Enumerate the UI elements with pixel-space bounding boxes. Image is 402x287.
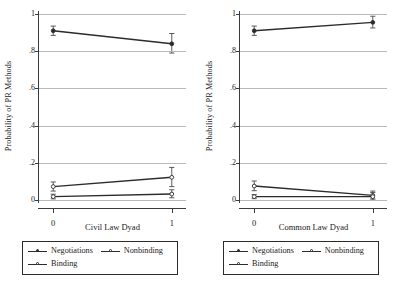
legend-civil: Negotiations Nonbinding Binding xyxy=(22,241,178,275)
data-point-marker xyxy=(371,20,375,24)
line-marker-icon-nonbinding xyxy=(101,248,120,255)
gridline xyxy=(39,163,186,164)
x-axis-tick xyxy=(373,209,374,213)
panel-common-law-dyad: Probability of PR Methods 0.2.4.6.8101 C… xyxy=(201,0,402,287)
y-axis-label: Probability of PR Methods xyxy=(2,6,16,206)
y-axis-tick xyxy=(35,51,39,52)
series-line xyxy=(53,194,172,197)
legend-row-2: Binding xyxy=(28,258,172,271)
data-point-marker xyxy=(51,195,55,199)
y-axis-tick-label: .8 xyxy=(29,47,35,55)
y-axis-tick xyxy=(35,126,39,127)
plot-area-common: 0.2.4.6.8101 xyxy=(240,14,387,200)
x-axis-label: Common Law Dyad xyxy=(240,222,387,232)
y-axis-tick xyxy=(236,163,240,164)
legend-row-1: Negotiations Nonbinding xyxy=(28,245,172,258)
series-line xyxy=(53,31,172,44)
data-point-marker xyxy=(51,29,55,33)
series-line xyxy=(53,177,172,186)
line-marker-icon-negotiations xyxy=(28,248,47,255)
legend-label-binding: Binding xyxy=(252,260,278,268)
legend-label-negotiations: Negotiations xyxy=(51,247,93,255)
y-axis-tick-label: 1 xyxy=(232,10,236,18)
legend-entry-negotiations: Negotiations xyxy=(229,247,294,255)
gridline xyxy=(39,51,186,52)
gridline xyxy=(240,51,387,52)
gridline xyxy=(39,200,186,201)
legend-common: Negotiations Nonbinding Binding xyxy=(223,241,379,275)
gridline xyxy=(240,14,387,15)
y-axis-tick-label: .4 xyxy=(29,122,35,130)
series-negotiations xyxy=(51,26,175,53)
gridline xyxy=(240,88,387,89)
data-point-marker xyxy=(170,192,174,196)
gridline xyxy=(240,126,387,127)
data-point-marker xyxy=(252,29,256,33)
series-line xyxy=(254,186,373,195)
y-axis-tick-label: .2 xyxy=(230,159,236,167)
x-axis-tick xyxy=(172,209,173,213)
figure-two-panel-chart: Probability of PR Methods 0.2.4.6.8101 C… xyxy=(0,0,402,287)
line-marker-icon-binding xyxy=(229,261,248,268)
legend-entry-nonbinding: Nonbinding xyxy=(302,247,364,255)
gridline xyxy=(39,126,186,127)
y-axis-tick-label: .2 xyxy=(29,159,35,167)
y-axis-tick xyxy=(35,14,39,15)
data-point-marker xyxy=(252,195,256,199)
data-point-marker xyxy=(51,185,55,189)
legend-label-negotiations: Negotiations xyxy=(252,247,294,255)
legend-label-nonbinding: Nonbinding xyxy=(325,247,364,255)
x-axis-tick xyxy=(254,209,255,213)
legend-entry-binding: Binding xyxy=(229,260,278,268)
x-axis-line xyxy=(239,208,387,209)
y-axis-tick-label: .6 xyxy=(29,84,35,92)
y-axis-tick xyxy=(236,51,240,52)
gridline xyxy=(240,163,387,164)
y-axis-tick-label: 0 xyxy=(31,196,35,204)
legend-entry-negotiations: Negotiations xyxy=(28,247,93,255)
y-axis-tick-label: 0 xyxy=(232,196,236,204)
series-nonbinding xyxy=(51,167,175,191)
gridline xyxy=(39,88,186,89)
gridline xyxy=(240,200,387,201)
line-marker-icon-binding xyxy=(28,261,47,268)
x-axis-tick xyxy=(53,209,54,213)
y-axis-tick xyxy=(236,126,240,127)
data-point-marker xyxy=(170,175,174,179)
y-axis-tick xyxy=(35,200,39,201)
x-axis-line xyxy=(38,208,186,209)
legend-label-binding: Binding xyxy=(51,260,77,268)
data-point-marker xyxy=(371,195,375,199)
series-binding xyxy=(51,190,175,199)
y-axis-tick-label: .8 xyxy=(230,47,236,55)
series-layer-civil xyxy=(39,14,186,200)
y-axis-tick xyxy=(35,88,39,89)
data-point-marker xyxy=(252,184,256,188)
legend-label-nonbinding: Nonbinding xyxy=(124,247,163,255)
y-axis-tick xyxy=(236,200,240,201)
y-axis-tick xyxy=(35,163,39,164)
series-negotiations xyxy=(252,16,376,35)
gridline xyxy=(39,14,186,15)
legend-row-1: Negotiations Nonbinding xyxy=(229,245,373,258)
x-axis-label: Civil Law Dyad xyxy=(39,222,186,232)
y-axis-label: Probability of PR Methods xyxy=(203,6,217,206)
y-axis-tick-label: .6 xyxy=(230,84,236,92)
line-marker-icon-nonbinding xyxy=(302,248,321,255)
plot-area-civil: 0.2.4.6.8101 xyxy=(39,14,186,200)
legend-entry-nonbinding: Nonbinding xyxy=(101,247,163,255)
y-axis-tick xyxy=(236,14,240,15)
legend-entry-binding: Binding xyxy=(28,260,77,268)
series-line xyxy=(254,22,373,30)
series-layer-common xyxy=(240,14,387,200)
y-axis-tick xyxy=(236,88,240,89)
legend-row-2: Binding xyxy=(229,258,373,271)
y-axis-tick-label: .4 xyxy=(230,122,236,130)
data-point-marker xyxy=(170,42,174,46)
line-marker-icon-negotiations xyxy=(229,248,248,255)
panel-civil-law-dyad: Probability of PR Methods 0.2.4.6.8101 C… xyxy=(0,0,201,287)
y-axis-tick-label: 1 xyxy=(31,10,35,18)
